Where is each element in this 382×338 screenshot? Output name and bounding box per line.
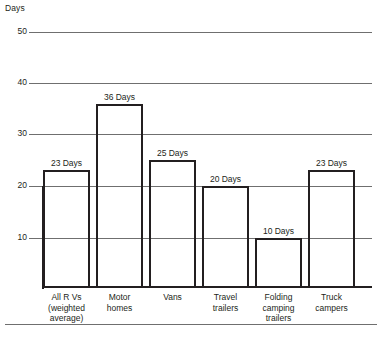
bar-value-motor-homes: 36 Days xyxy=(96,92,143,102)
y-tick-mark-30 xyxy=(29,134,43,135)
y-tick-mark-50 xyxy=(29,32,43,33)
bar-category-line-3: average) xyxy=(28,313,105,324)
bar-folding-camping-trailers[interactable] xyxy=(255,238,302,288)
bar-value-travel-trailers: 20 Days xyxy=(202,174,249,184)
bar-category-line-3: trailers xyxy=(247,313,310,324)
bar-category-line-1: Truck xyxy=(300,292,363,303)
bar-travel-trailers[interactable] xyxy=(202,186,249,288)
bar-value-all-rvs: 23 Days xyxy=(43,158,90,168)
y-tick-mark-20 xyxy=(29,186,43,187)
gridline-30 xyxy=(43,134,372,135)
bar-motor-homes[interactable] xyxy=(96,104,143,288)
bar-truck-campers[interactable] xyxy=(308,170,355,288)
y-tick-mark-40 xyxy=(29,83,43,84)
bar-chart: Days 50 40 30 20 10 23 Days All R Vs (we… xyxy=(0,0,382,338)
bar-vans[interactable] xyxy=(149,160,196,288)
bar-all-rvs[interactable] xyxy=(43,170,90,288)
bar-value-folding-camping-trailers: 10 Days xyxy=(255,226,302,236)
bar-category-truck-campers: Truck campers xyxy=(300,292,363,313)
gridline-40 xyxy=(43,83,372,84)
bar-value-truck-campers: 23 Days xyxy=(308,158,355,168)
y-tick-label-30: 30 xyxy=(5,129,27,138)
y-tick-label-20: 20 xyxy=(5,181,27,190)
bar-category-line-2: campers xyxy=(300,303,363,314)
plot-area: Days 50 40 30 20 10 23 Days All R Vs (we… xyxy=(0,0,382,338)
y-tick-label-50: 50 xyxy=(5,27,27,36)
y-tick-label-40: 40 xyxy=(5,78,27,87)
gridline-50 xyxy=(43,32,372,33)
bar-category-line-2: homes xyxy=(88,303,151,314)
y-tick-label-10: 10 xyxy=(5,233,27,242)
bar-value-vans: 25 Days xyxy=(149,148,196,158)
y-tick-mark-10 xyxy=(29,238,43,239)
bottom-divider xyxy=(5,324,377,325)
y-axis-title: Days xyxy=(5,3,25,13)
